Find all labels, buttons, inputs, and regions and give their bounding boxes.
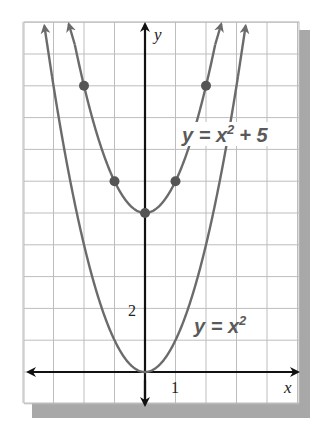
label-x-squared: y = x2 — [193, 313, 247, 337]
svg-text:y = x2: y = x2 — [193, 313, 247, 337]
y-axis-label: y — [152, 25, 162, 44]
parabola-graph: y x 1 2 y = x2+ 5 y = x2 — [0, 0, 328, 444]
data-point — [110, 176, 120, 186]
data-point — [79, 81, 89, 91]
x-tick-label: 1 — [171, 379, 179, 396]
label-x-squared-plus-5: y = x2+ 5 — [180, 122, 286, 146]
data-point — [140, 208, 150, 218]
data-point — [201, 81, 211, 91]
x-axis-label: x — [283, 378, 292, 397]
svg-text:y = x2+ 5: y = x2+ 5 — [181, 122, 269, 146]
data-point — [171, 176, 181, 186]
y-tick-label: 2 — [128, 302, 136, 319]
